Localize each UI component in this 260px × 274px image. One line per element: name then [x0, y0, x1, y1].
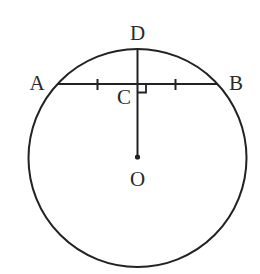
- circle-chord-diagram: D A B C O: [0, 0, 260, 274]
- label-A: A: [29, 71, 45, 95]
- label-B: B: [229, 71, 243, 95]
- label-D: D: [130, 21, 145, 45]
- label-C: C: [117, 85, 131, 109]
- label-O: O: [130, 167, 145, 191]
- right-angle-marker: [138, 84, 147, 93]
- center-point-O: [135, 154, 140, 159]
